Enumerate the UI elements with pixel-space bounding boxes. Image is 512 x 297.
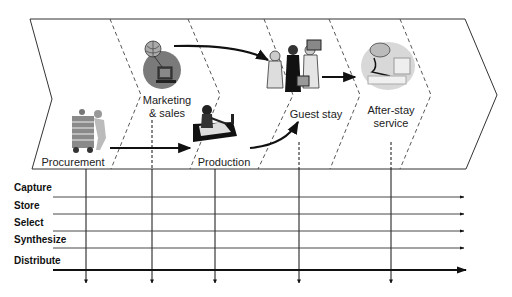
information-rows: Capture Store Select Synthesize Distribu… [14,182,466,270]
stage-label-marketing-line2: & sales [149,107,186,119]
info-label-distribute: Distribute [14,255,61,266]
stage-label-procurement: Procurement [42,156,105,168]
info-label-select: Select [14,217,44,228]
stage-label-after-stay-line2: service [374,117,409,129]
info-label-store: Store [14,200,40,211]
stage-label-after-stay-line1: After-stay [367,104,415,116]
info-label-synthesize: Synthesize [14,234,67,245]
customer-service-agent-icon [361,42,415,90]
stage-label-marketing-line1: Marketing [143,94,191,106]
stage-label-production: Production [198,156,251,168]
stage-vertical-arrows [86,169,391,283]
value-chain-diagram: Marketing & sales Guest stay After-stay … [0,0,512,297]
stage-label-guest-stay: Guest stay [290,108,343,120]
info-label-capture: Capture [14,182,52,193]
